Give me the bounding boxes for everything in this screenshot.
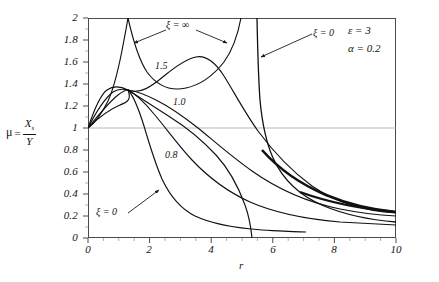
parameter-alpha: α = 0.2 — [348, 42, 380, 54]
xi-zero-left-label: ξ = 0 — [96, 206, 117, 217]
figure-root: 2 1.8 1.6 1.4 1.2 1 0.8 0.6 0.4 0.2 0 0 … — [0, 0, 439, 282]
xi-zero-right-arrow — [261, 34, 312, 57]
curve-1-5 — [88, 57, 396, 213]
curve-label-1-5: 1.5 — [155, 60, 168, 71]
x-axis-minor-ticks — [103, 238, 380, 241]
xi-zero-right-label: ξ = 0 — [313, 27, 334, 38]
curve-label-1-0: 1.0 — [173, 96, 186, 107]
curve-label-0-8: 0.8 — [165, 149, 178, 160]
xi-infinity-label: ξ = ∞ — [166, 19, 189, 30]
xi-zero-left-arrow — [128, 190, 159, 213]
curve-xi-zero-asymptote-branch — [128, 90, 252, 238]
xi-infinity-arrow — [134, 30, 227, 43]
parameter-epsilon: ε = 3 — [348, 24, 371, 36]
